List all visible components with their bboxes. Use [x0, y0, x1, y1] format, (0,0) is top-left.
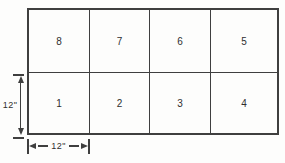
arrowhead-down-icon [18, 128, 24, 135]
grid-cell-6: 6 [150, 10, 211, 73]
grid-cell-7: 7 [90, 10, 150, 73]
cell-number: 2 [117, 98, 123, 109]
grid-cell-1: 1 [29, 73, 90, 133]
cell-number: 4 [241, 98, 247, 109]
bottom-dimension-label: 12" [50, 142, 67, 151]
arrowhead-right-icon [81, 143, 88, 149]
cell-number: 5 [241, 36, 247, 47]
arrowhead-up-icon [18, 76, 24, 83]
grid-cell-2: 2 [90, 73, 150, 133]
horizontal-dimension-arrow: 12" [29, 139, 88, 153]
dimension-line [69, 145, 79, 147]
panel-grid: 8 7 6 5 1 2 3 4 [27, 8, 279, 135]
grid-cell-5: 5 [211, 10, 277, 73]
panel-layout-diagram: 8 7 6 5 1 2 3 4 12" 12" [0, 0, 285, 163]
cell-number: 8 [56, 36, 62, 47]
extension-line-right [88, 139, 90, 154]
left-dimension-label: 12" [2, 101, 18, 110]
dimension-tick-bottom [13, 137, 24, 139]
vertical-dimension-arrow [17, 76, 24, 135]
arrowhead-left-icon [29, 143, 36, 149]
cell-number: 6 [177, 36, 183, 47]
grid-cell-8: 8 [29, 10, 90, 73]
grid-cell-4: 4 [211, 73, 277, 133]
cell-number: 7 [117, 36, 123, 47]
dimension-line [20, 83, 22, 128]
cell-number: 3 [177, 98, 183, 109]
dimension-line [38, 145, 48, 147]
grid-cell-3: 3 [150, 73, 211, 133]
cell-number: 1 [56, 98, 62, 109]
